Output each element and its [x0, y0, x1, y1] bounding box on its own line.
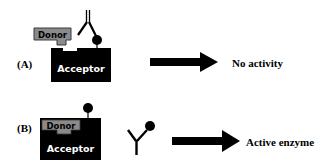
epitope-ball-b-icon — [83, 103, 93, 118]
arrow-b-icon — [172, 130, 240, 152]
panel-b: (B) Donor Acceptor Active enzyme — [17, 103, 314, 160]
panel-a-label: (A) — [17, 58, 33, 71]
donor-a-label: Donor — [38, 30, 68, 40]
antibody-a-icon — [78, 10, 102, 48]
result-b-text: Active enzyme — [246, 136, 314, 148]
acceptor-b-label: Acceptor — [47, 143, 95, 154]
complementation-diagram: (A) Acceptor Donor No activity (B) Dono — [0, 0, 334, 165]
result-a-text: No activity — [232, 57, 284, 69]
acceptor-a-label: Acceptor — [57, 63, 105, 74]
antibody-b-icon — [128, 121, 155, 155]
panel-a: (A) Acceptor Donor No activity — [17, 10, 284, 82]
arrow-a-icon — [150, 52, 218, 72]
donor-b-label: Donor — [47, 121, 77, 131]
panel-b-label: (B) — [17, 122, 32, 135]
epitope-ball-a-icon — [92, 35, 102, 45]
